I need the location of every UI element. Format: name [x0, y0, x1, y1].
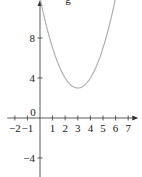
x-axis-arrow — [132, 116, 138, 121]
curve-layer — [40, 0, 116, 88]
chart-title: g — [65, 0, 71, 5]
x-tick-label: 5 — [100, 122, 106, 134]
x-tick-label: 4 — [88, 122, 94, 134]
curve-g — [40, 0, 116, 88]
x-tick-label: −1 — [22, 122, 34, 134]
x-tick-label: 6 — [113, 122, 119, 134]
x-tick-label: 7 — [125, 122, 131, 134]
x-tick-label: −2 — [9, 122, 21, 134]
chart: −2−1123456784−40 g — [0, 0, 142, 177]
y-tick-label: −4 — [23, 152, 35, 164]
x-tick-label: 1 — [50, 122, 56, 134]
y-tick-label: 4 — [30, 72, 36, 84]
x-tick-label: 2 — [62, 122, 68, 134]
ticks: −2−1123456784−40 — [9, 32, 132, 164]
y-tick-label: 8 — [30, 32, 36, 44]
axes — [7, 0, 138, 177]
origin-label: 0 — [30, 106, 36, 118]
x-tick-label: 3 — [75, 122, 81, 134]
